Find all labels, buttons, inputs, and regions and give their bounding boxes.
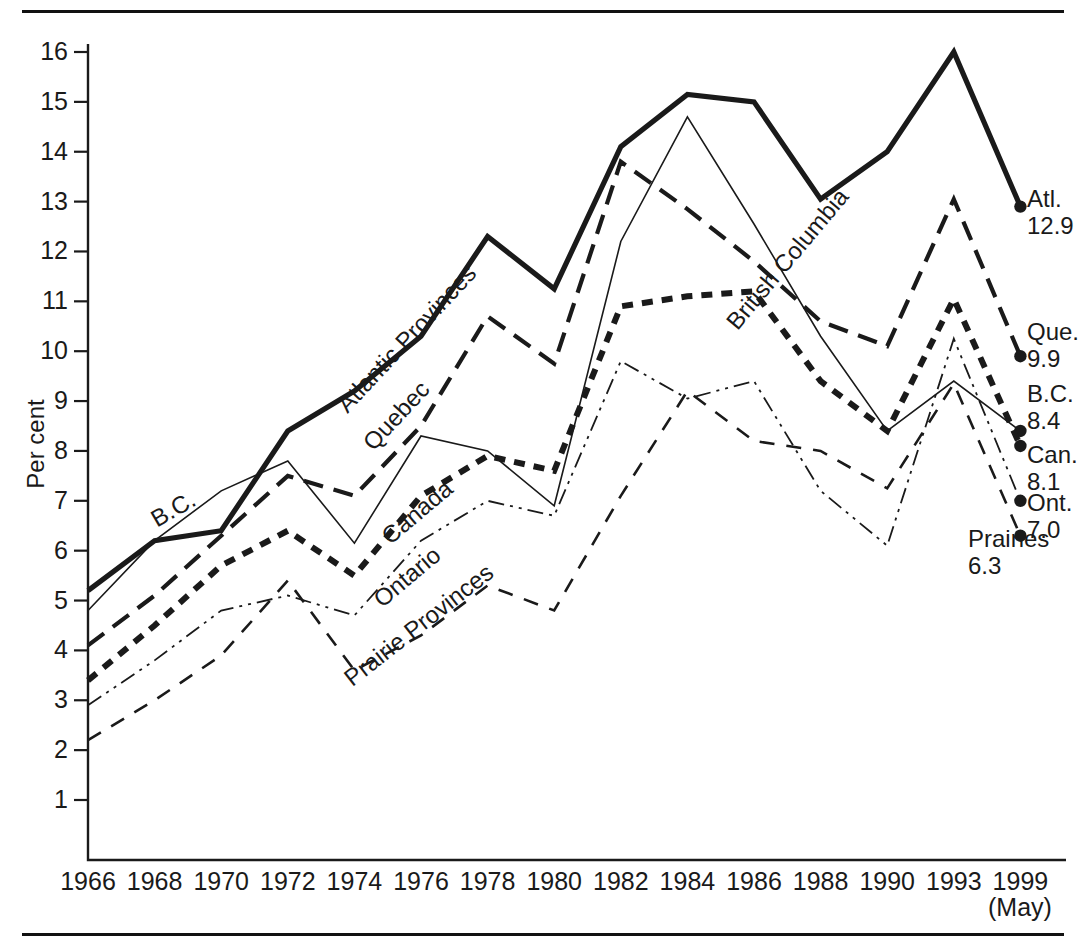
endpoint-series-value: 9.9 [1027, 345, 1079, 372]
y-axis-tick-label: 10 [22, 338, 68, 363]
y-axis-tick-label: 4 [22, 637, 68, 662]
y-axis-tick-label: 6 [22, 538, 68, 563]
series-endpoint-dot [1014, 350, 1026, 362]
series-endpoint-label: B.C.8.4 [1027, 380, 1074, 434]
y-axis-tick-label: 2 [22, 737, 68, 762]
y-axis-tick-label: 3 [22, 687, 68, 712]
series-line-atlantic-provinces [88, 52, 1020, 591]
endpoint-series-name: Prairies [968, 525, 1049, 552]
endpoint-series-value: 6.3 [968, 552, 1049, 579]
y-axis-tick-label: 15 [22, 89, 68, 114]
endpoint-series-name: B.C. [1027, 380, 1074, 407]
y-axis-tick-label: 13 [22, 189, 68, 214]
series-endpoint-dot [1014, 495, 1026, 507]
endpoint-series-name: Que. [1027, 318, 1079, 345]
y-axis-tick-label: 11 [22, 288, 68, 313]
x-axis-sub-note: (May) [975, 893, 1065, 922]
unemployment-rate-line-chart: 12345678910111213141516 1966196819701972… [0, 0, 1086, 944]
series-line-canada [88, 291, 1020, 680]
endpoint-series-value: 8.4 [1027, 407, 1074, 434]
series-endpoint-dot [1014, 440, 1026, 452]
y-axis-tick-label: 16 [22, 39, 68, 64]
series-line-quebec [88, 162, 1020, 646]
y-axis-tick-label: 5 [22, 588, 68, 613]
y-axis-tick-label: 1 [22, 787, 68, 812]
endpoint-series-name: Atl. [1027, 185, 1074, 212]
y-axis-tick-label: 14 [22, 139, 68, 164]
y-axis-title: Per cent [22, 384, 50, 504]
y-axis-tick-label: 12 [22, 238, 68, 263]
series-endpoint-dot [1014, 200, 1026, 212]
endpoint-series-name: Ont. [1027, 489, 1072, 516]
series-endpoint-label: Prairies6.3 [968, 525, 1049, 579]
series-endpoint-label: Atl.12.9 [1027, 185, 1074, 239]
x-axis-tick-label: 1999 [980, 868, 1060, 894]
series-endpoint-label: Que.9.9 [1027, 318, 1079, 372]
series-endpoint-label: Can.8.1 [1027, 441, 1078, 495]
endpoint-series-value: 12.9 [1027, 212, 1074, 239]
plot-canvas [0, 0, 1086, 944]
endpoint-series-name: Can. [1027, 441, 1078, 468]
axis-spine [88, 44, 1066, 860]
